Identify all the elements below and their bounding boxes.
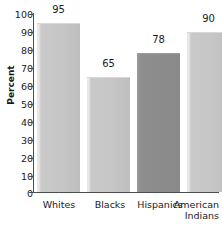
y-axis-ticks: 100 90 80 70 60 50 40 30 20 10 0	[0, 0, 33, 232]
x-label-american-indians-line2: Indians	[185, 210, 219, 221]
x-axis-line	[33, 192, 219, 193]
x-label-blacks: Blacks	[84, 199, 136, 210]
bar-value-american-indians: 90	[187, 14, 222, 24]
x-label-whites: Whites	[33, 199, 85, 210]
bar-value-blacks: 65	[87, 59, 130, 69]
plot-area	[33, 14, 217, 192]
bar-value-hispanics: 78	[137, 35, 180, 45]
bar-blacks	[87, 77, 130, 192]
bar-whites	[37, 23, 80, 192]
bar-american-indians	[187, 32, 222, 192]
bar-value-whites: 95	[37, 5, 80, 15]
bar-chart: Percent 100 90 80 70 60 50 40 30 20 10 0…	[0, 0, 222, 232]
x-label-american-indians-line1: American	[174, 199, 219, 210]
bar-hispanics	[137, 53, 180, 192]
x-label-american-indians: American Indians	[163, 199, 219, 221]
y-tick-label: 0	[5, 189, 33, 199]
